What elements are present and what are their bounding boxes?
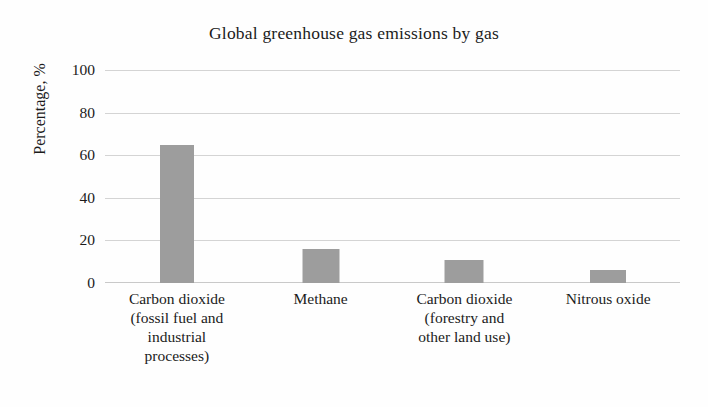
x-label-nitrous-oxide: Nitrous oxide [536, 289, 680, 308]
x-label-carbon-dioxide-fossil: Carbon dioxide(fossil fuel andindustrial… [105, 289, 249, 365]
x-label-line: other land use) [393, 327, 537, 346]
bar-slot [536, 70, 680, 283]
y-tick-label: 20 [35, 231, 95, 249]
bar-slot [393, 70, 537, 283]
y-tick-label: 40 [35, 189, 95, 207]
x-label-line: Methane [249, 289, 393, 308]
bar-carbon-dioxide-fossil[interactable] [160, 145, 194, 283]
y-tick-label: 100 [35, 61, 95, 79]
x-label-line: industrial [105, 327, 249, 346]
y-tick-label: 0 [35, 274, 95, 292]
x-label-line: (forestry and [393, 308, 537, 327]
x-axis-labels: Carbon dioxide(fossil fuel andindustrial… [105, 289, 680, 399]
x-label-line: Carbon dioxide [105, 289, 249, 308]
x-label-carbon-dioxide-forestry: Carbon dioxide(forestry andother land us… [393, 289, 537, 346]
y-axis-ticks: 100 80 60 40 20 0 [33, 70, 95, 283]
y-tick-label: 80 [35, 104, 95, 122]
chart-title: Global greenhouse gas emissions by gas [0, 23, 708, 44]
bar-chart: Global greenhouse gas emissions by gas P… [0, 0, 708, 407]
bar-carbon-dioxide-forestry[interactable] [445, 260, 484, 283]
x-label-line: Carbon dioxide [393, 289, 537, 308]
x-label-line: Nitrous oxide [536, 289, 680, 308]
x-label-methane: Methane [249, 289, 393, 308]
bar-slot [105, 70, 249, 283]
x-label-line: (fossil fuel and [105, 308, 249, 327]
bars-layer [105, 70, 680, 283]
bar-nitrous-oxide[interactable] [590, 270, 626, 283]
y-tick-label: 60 [35, 146, 95, 164]
x-label-line: processes) [105, 346, 249, 365]
bar-methane[interactable] [302, 249, 339, 283]
bar-slot [249, 70, 393, 283]
